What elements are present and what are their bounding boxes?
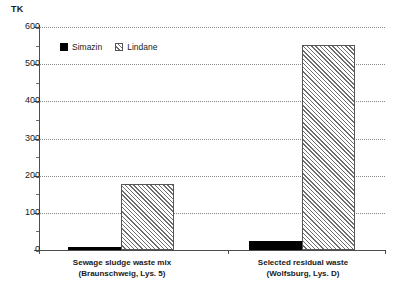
y-minor-tick-350 [36, 120, 39, 121]
y-tick-label-500: 500 [10, 58, 40, 68]
x-tick-2 [385, 250, 386, 254]
legend-label-simazin: Simazin [72, 42, 102, 52]
bar-simazin-group-1 [68, 247, 121, 250]
y-tick-label-300: 300 [10, 133, 40, 143]
chart-container: TK 0100200300400500600 Simazin Lindane S… [0, 0, 402, 287]
x-axis-line [39, 250, 386, 251]
y-minor-tick-150 [36, 194, 39, 195]
bar-lindane-group-1 [121, 184, 174, 250]
legend-item-lindane: Lindane [115, 42, 157, 52]
y-tick-label-400: 400 [10, 95, 40, 105]
y-tick-label-600: 600 [10, 21, 40, 31]
x-tick-0 [39, 250, 40, 254]
y-minor-tick-550 [36, 46, 39, 47]
plot-area: 0100200300400500600 [39, 27, 385, 250]
chart-legend: Simazin Lindane [60, 42, 158, 52]
category-label-2-line-1: Selected residual waste [218, 257, 388, 268]
legend-swatch-simazin [60, 43, 68, 51]
y-tick-label-100: 100 [10, 207, 40, 217]
y-tick-label-0: 0 [10, 244, 40, 254]
category-label-1: Sewage sludge waste mix(Braunschweig, Ly… [37, 257, 207, 279]
category-label-2: Selected residual waste(Wolfsburg, Lys. … [218, 257, 388, 279]
y-tick-label-200: 200 [10, 170, 40, 180]
gridline-600 [39, 27, 385, 28]
category-label-1-line-2: (Braunschweig, Lys. 5) [37, 268, 207, 279]
y-minor-tick-450 [36, 83, 39, 84]
category-label-2-line-2: (Wolfsburg, Lys. D) [218, 268, 388, 279]
y-minor-tick-50 [36, 231, 39, 232]
legend-label-lindane: Lindane [127, 42, 157, 52]
legend-swatch-lindane [115, 43, 123, 51]
y-minor-tick-250 [36, 157, 39, 158]
x-tick-1 [228, 250, 229, 254]
category-label-1-line-1: Sewage sludge waste mix [37, 257, 207, 268]
y-axis-unit-label: TK [11, 4, 24, 14]
bar-lindane-group-2 [302, 45, 355, 250]
bar-simazin-group-2 [249, 241, 302, 250]
legend-item-simazin: Simazin [60, 42, 102, 52]
